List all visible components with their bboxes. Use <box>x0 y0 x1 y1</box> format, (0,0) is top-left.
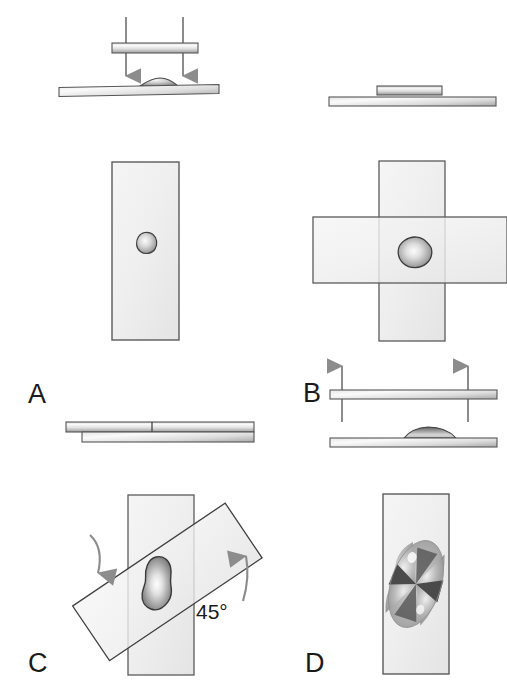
panel-letter-a: A <box>28 381 46 408</box>
rotation-angle-label: 45° <box>196 601 228 622</box>
scientific-diagram-svg <box>0 0 507 684</box>
panel-a-coverslip-side <box>112 43 198 53</box>
panel-a-slide-side <box>59 78 219 97</box>
specimen-drop-flattened-side <box>404 427 456 438</box>
panel-b <box>313 86 507 447</box>
slide-edge-upper-offset <box>66 422 254 432</box>
panel-c-slides-side <box>66 422 254 442</box>
specimen-drop-face <box>398 237 432 268</box>
coverslip-edge <box>112 43 198 53</box>
panel-c <box>66 422 262 675</box>
panel-d <box>377 494 454 674</box>
panel-letter-d: D <box>305 650 325 677</box>
microscope-slide-edge-lower <box>330 438 497 447</box>
panel-b-slides-side-lifted <box>330 390 497 447</box>
panel-letter-b: B <box>303 380 321 407</box>
specimen-drop-dome-side <box>140 78 178 86</box>
panel-a-face-view <box>112 162 179 340</box>
panel-a <box>59 17 219 340</box>
rotate-left-arrow-icon <box>90 535 100 573</box>
microscope-slide-edge <box>59 85 219 97</box>
microscope-slide-edge <box>329 97 496 106</box>
panel-b-slides-side <box>329 86 496 106</box>
panel-c-face-view <box>73 495 262 675</box>
figure-canvas: A B C D 45° <box>0 0 507 684</box>
slide-edge-lower-offset <box>82 432 254 442</box>
coverslip-edge-lifted <box>330 390 497 399</box>
coverslip-edge-resting <box>377 86 442 95</box>
specimen-drop-face <box>137 232 157 253</box>
panel-letter-c: C <box>28 650 48 677</box>
panel-b-face-view <box>313 161 507 341</box>
